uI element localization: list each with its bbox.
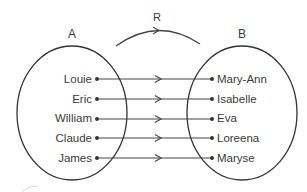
relation-arc xyxy=(116,30,200,46)
set-a-element: Claude xyxy=(56,132,92,144)
set-a-element: Eric xyxy=(72,93,92,105)
set-b-dot xyxy=(210,77,214,81)
set-b-element: Mary-Ann xyxy=(217,73,267,85)
set-a-element: William xyxy=(55,112,92,124)
relation-diagram: R A B Louie Mary-Ann Eric Isabelle xyxy=(0,0,307,192)
mapping-row: William Eva xyxy=(55,112,237,124)
set-b-element: Loreena xyxy=(217,132,260,144)
mapping-row: Louie Mary-Ann xyxy=(64,73,267,85)
set-a-element: James xyxy=(58,152,92,164)
scan-artifact xyxy=(22,186,38,192)
set-a-label: A xyxy=(68,27,76,41)
set-b-element: Maryse xyxy=(217,152,255,164)
set-b-element: Isabelle xyxy=(217,93,257,105)
set-b-dot xyxy=(210,97,214,101)
set-b-dot xyxy=(210,117,214,121)
mapping-row: Eric Isabelle xyxy=(72,93,256,105)
relation-label: R xyxy=(153,11,161,23)
mapping-row: Claude Loreena xyxy=(56,132,260,144)
set-b-dot xyxy=(210,156,214,160)
set-b-element: Eva xyxy=(217,112,237,124)
set-b-label: B xyxy=(238,27,246,41)
set-a-element: Louie xyxy=(64,73,92,85)
set-b-dot xyxy=(210,136,214,140)
mapping-row: James Maryse xyxy=(58,152,255,164)
relation-r: R xyxy=(116,11,200,46)
